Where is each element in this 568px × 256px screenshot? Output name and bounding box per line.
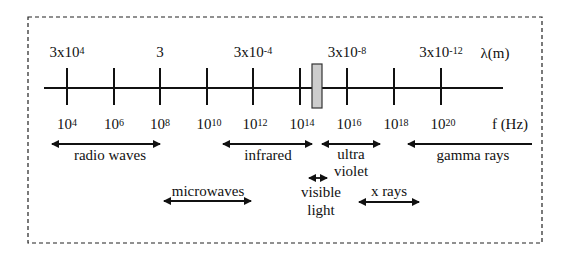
frequency-label: 1014 bbox=[290, 116, 315, 132]
wavelength-label: 3x10-12 bbox=[419, 44, 462, 60]
tick-marks bbox=[67, 68, 441, 105]
infrared-label: infrared bbox=[244, 147, 291, 163]
wavelength-label: 3x10-4 bbox=[234, 44, 272, 60]
wavelength-label: 3x10-8 bbox=[328, 44, 366, 60]
frequency-label: 1010 bbox=[197, 116, 222, 132]
radio-waves-label: radio waves bbox=[74, 147, 146, 163]
frequency-axis-label: f (Hz) bbox=[492, 116, 528, 132]
frequency-label: 104 bbox=[57, 116, 77, 132]
spectrum-diagram bbox=[0, 0, 568, 256]
visible-light-label-1: visible bbox=[301, 184, 341, 200]
frequency-label: 1012 bbox=[243, 116, 268, 132]
frequency-label: 1018 bbox=[384, 116, 409, 132]
frequency-label: 108 bbox=[150, 116, 170, 132]
ultraviolet-label-1: ultra bbox=[337, 146, 365, 162]
microwaves-label: microwaves bbox=[172, 183, 244, 199]
visible-light-label-2: light bbox=[307, 202, 335, 218]
frequency-label: 106 bbox=[104, 116, 124, 132]
wavelength-label: 3x104 bbox=[50, 44, 85, 60]
frequency-label: 1020 bbox=[431, 116, 456, 132]
wavelength-label: 3 bbox=[156, 44, 164, 60]
wavelength-axis-label: λ(m) bbox=[481, 45, 510, 61]
x-rays-label: x rays bbox=[371, 183, 407, 199]
ultraviolet-label-2: violet bbox=[334, 163, 368, 179]
frequency-label: 1016 bbox=[337, 116, 362, 132]
visible-band bbox=[312, 64, 322, 108]
gamma-rays-label: gamma rays bbox=[437, 147, 510, 163]
